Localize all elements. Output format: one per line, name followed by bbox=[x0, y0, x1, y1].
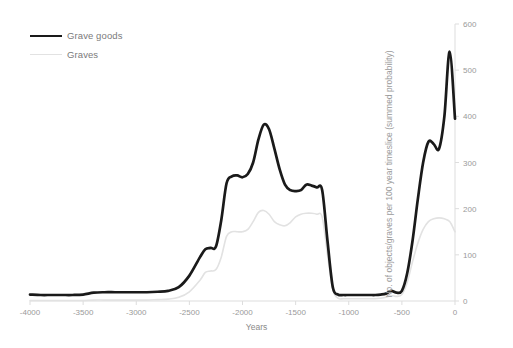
x-tick-label: -3000 bbox=[126, 308, 146, 317]
y-tick-label: 100 bbox=[463, 250, 476, 259]
y-tick-label: 0 bbox=[463, 297, 467, 306]
legend-swatch-graves-icon bbox=[30, 54, 62, 55]
legend-item-graves: Graves bbox=[30, 45, 180, 64]
y-tick-label: 400 bbox=[463, 112, 476, 121]
legend-swatch-grave-goods-icon bbox=[30, 35, 62, 37]
y-tick-label: 600 bbox=[463, 20, 476, 29]
y-tick-label: 500 bbox=[463, 66, 476, 75]
y-tick-label: 200 bbox=[463, 204, 476, 213]
chart-container: Grave goods Graves -4000-3500-3000-2500-… bbox=[0, 0, 513, 348]
x-axis-title: Years bbox=[246, 322, 267, 332]
chart-legend: Grave goods Graves bbox=[30, 26, 180, 64]
y-axis-title: No. of objects/graves per 100 year times… bbox=[383, 50, 393, 297]
legend-label-graves: Graves bbox=[67, 49, 98, 60]
x-tick-label: -2500 bbox=[179, 308, 199, 317]
legend-label-grave-goods: Grave goods bbox=[67, 30, 123, 41]
x-tick-label: -1500 bbox=[285, 308, 305, 317]
x-tick-label: -4000 bbox=[20, 308, 40, 317]
legend-item-grave-goods: Grave goods bbox=[30, 26, 180, 45]
x-tick-label: -1000 bbox=[339, 308, 359, 317]
x-tick-label: -500 bbox=[394, 308, 410, 317]
x-tick-label: 0 bbox=[453, 308, 457, 317]
x-tick-label: -2000 bbox=[232, 308, 252, 317]
x-tick-label: -3500 bbox=[73, 308, 93, 317]
tick-marks bbox=[30, 24, 459, 305]
y-tick-label: 300 bbox=[463, 158, 476, 167]
